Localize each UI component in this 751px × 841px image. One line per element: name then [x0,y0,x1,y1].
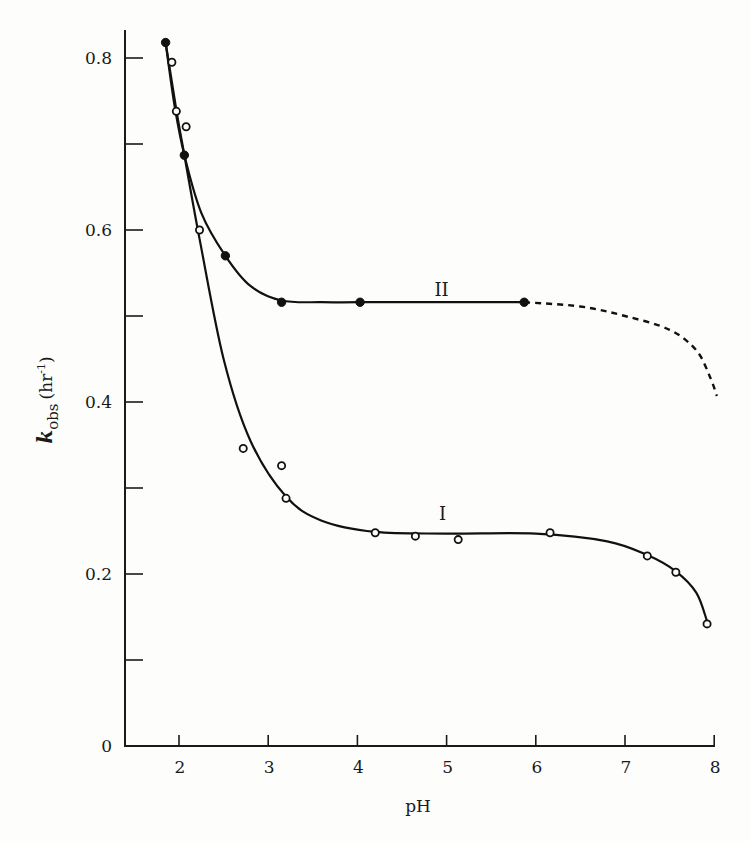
y-axis-symbol: k [33,430,57,444]
x-tick-label: 6 [531,757,542,777]
y-tick-label: 0.4 [85,392,112,412]
series-I-point [455,536,462,543]
series-I-point [173,108,180,115]
series-I-point [168,59,175,66]
y-axis-unit-exponent: -1 [35,363,48,374]
series-I-point [372,529,379,536]
x-tick-label: 2 [175,757,186,777]
x-tick-label: 7 [621,757,632,777]
series-I-label: I [439,503,446,524]
x-tick-label: 5 [442,757,453,777]
data-points [161,38,710,627]
x-tick-label: 3 [264,757,275,777]
series-II-fit-curve [166,43,525,303]
series-II-point [520,298,528,306]
series-I-point [282,495,289,502]
series-I-point [278,462,285,469]
series-I-point [546,529,553,536]
series-I-fit-curve [166,43,708,622]
y-tick-label: 0 [101,736,112,756]
y-axis-subscript: obs [44,403,62,429]
y-tick-label: 0.2 [85,564,112,584]
svg-text:kobs(hr-1): kobs(hr-1) [33,356,62,443]
series-I-point [644,552,651,559]
series-I-point [672,569,679,576]
series-I-point [196,226,203,233]
series-II-extrapolated-dashed-curve [524,302,717,396]
x-tick-label: 8 [710,757,721,777]
series-II-label: II [434,279,448,300]
series-II-point [277,298,285,306]
y-axis-unit: (hr [36,373,56,400]
y-axis-ticks: 00.20.40.60.8 [85,48,143,756]
y-tick-label: 0.8 [85,48,112,68]
series-I-point [183,123,190,130]
plot-curves [166,43,717,622]
y-axis-unit-close: ) [36,356,56,363]
y-tick-label: 0.6 [85,220,112,240]
series-I-point [412,533,419,540]
x-axis-title: pH [405,796,431,816]
x-axis-ticks: 2345678 [175,735,721,777]
y-axis-title: kobs(hr-1) [33,356,62,443]
series-I-point [240,445,247,452]
series-II-point [221,252,229,260]
series-II-point [161,38,169,46]
x-tick-label: 4 [353,757,364,777]
series-I-point [703,620,710,627]
series-II-point [356,298,364,306]
kobs-vs-ph-chart: 2345678 00.20.40.60.8 pH kobs(hr-1) I II [0,0,751,841]
series-II-point [180,151,188,159]
